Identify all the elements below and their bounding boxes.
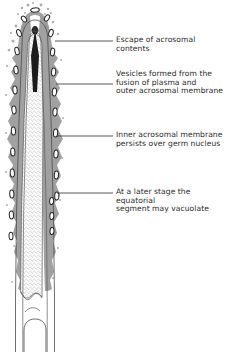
- tail-arch: [24, 319, 46, 352]
- label-line: outer acrosomal membrane: [116, 87, 223, 96]
- label-escape-of-acrosomal-contents: Escape of acrosomalcontents: [116, 36, 195, 53]
- label-inner-acrosomal-membrane: Inner acrosomal membranepersists over ge…: [116, 131, 222, 148]
- label-line: contents: [116, 45, 195, 54]
- leader-lines: [55, 41, 113, 193]
- label-equatorial-segment-vacuolate: At a later stage theequatorialsegment ma…: [116, 188, 209, 214]
- label-vesicles-formed-from-fusion: Vesicles formed from thefusion of plasma…: [116, 70, 223, 96]
- sperm-acrosome-diagram: [0, 0, 227, 364]
- figure-canvas: Escape of acrosomalcontentsVesicles form…: [0, 0, 227, 364]
- label-line: segment may vacuolate: [116, 205, 209, 214]
- label-line: persists over germ nucleus: [116, 140, 222, 149]
